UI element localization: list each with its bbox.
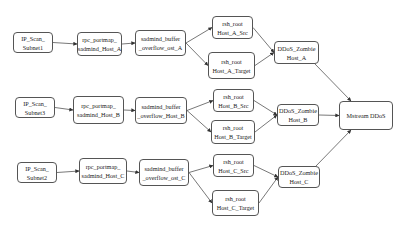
node-scan2: IP_Scan_Subnet2 bbox=[17, 162, 57, 183]
edge-bofA-to-rshASrc bbox=[186, 28, 212, 44]
node-label-line: Subnet3 bbox=[25, 108, 45, 117]
edge-rshASrc-to-zombA bbox=[253, 28, 274, 53]
node-label-line: Host_B_Target bbox=[214, 132, 252, 141]
node-rshBSrc: rsh_rootHost_B_Src bbox=[213, 89, 254, 112]
edge-rshBSrc-to-zombB bbox=[254, 101, 277, 116]
node-label-line: sadmind_Host_C bbox=[82, 171, 125, 180]
node-label-line: sadmind_buffer bbox=[141, 34, 180, 43]
node-label-line: Host_A_Src bbox=[217, 28, 248, 37]
edge-zombA-to-mstream bbox=[315, 64, 351, 101]
node-label-line: Host_A_Target bbox=[213, 66, 251, 75]
node-label-line: Host_C_Src bbox=[218, 166, 248, 175]
node-label-line: Host_B_Src bbox=[218, 101, 248, 110]
node-label-line: IP_Scan_ bbox=[25, 164, 49, 173]
node-label-line: IP_Scan_ bbox=[21, 34, 45, 43]
edge-scan1-to-rpcA bbox=[53, 43, 77, 45]
node-rpcB: rpc_portmap_sadmind_Host_B bbox=[73, 96, 124, 124]
node-zombB: DDoS_ZombieHost_B bbox=[277, 104, 319, 126]
node-label-line: rsh_root bbox=[223, 157, 244, 166]
node-label-line: DDoS_Zombie bbox=[278, 44, 316, 53]
node-rpcA: rpc_portmap_sadmind_Host_A bbox=[77, 32, 122, 56]
node-label-line: _overflow_ost_C bbox=[143, 173, 186, 182]
node-mstream: Mstream DDoS bbox=[339, 101, 393, 130]
node-scan3: IP_Scan_Subnet3 bbox=[15, 97, 55, 118]
edge-zombB-to-mstream bbox=[319, 115, 339, 116]
node-label-line: Subnet2 bbox=[27, 173, 47, 182]
node-label-line: rsh_root bbox=[221, 57, 242, 66]
edge-rshCTgt-to-zombC bbox=[259, 177, 278, 203]
node-rshASrc: rsh_rootHost_A_Src bbox=[212, 16, 253, 39]
node-rshATgt: rsh_rootHost_A_Target bbox=[208, 52, 255, 79]
edge-rshCSrc-to-zombC bbox=[254, 166, 278, 178]
node-label-line: rsh_root bbox=[223, 92, 244, 101]
node-label-line: rpc_portmap_ bbox=[86, 162, 121, 171]
node-label-line: rpc_portmap_ bbox=[81, 101, 116, 110]
node-label-line: sadmind_buffer bbox=[141, 102, 180, 111]
node-rshBTgt: rsh_rootHost_B_Target bbox=[211, 120, 255, 144]
edge-rshATgt-to-zombA bbox=[255, 53, 274, 66]
edge-bofB-to-rshBSrc bbox=[187, 101, 213, 111]
node-label-line: Host_A bbox=[287, 53, 306, 62]
node-zombC: DDoS_ZombieHost_C bbox=[278, 166, 320, 188]
node-rpcC: rpc_portmap_sadmind_Host_C bbox=[79, 158, 127, 184]
edge-bofB-to-rshBTgt bbox=[187, 111, 211, 133]
node-label-line: rpc_portmap_ bbox=[82, 35, 117, 44]
node-label-line: Host_C bbox=[290, 177, 309, 186]
node-zombA: DDoS_ZombieHost_A bbox=[274, 41, 319, 64]
node-label-line: Subnet1 bbox=[23, 43, 43, 52]
edge-rpcB-to-bofB bbox=[124, 110, 135, 111]
node-label-line: DDoS_Zombie bbox=[279, 106, 317, 115]
node-label-line: Mstream DDoS bbox=[346, 111, 385, 120]
node-bofC: sadmind_buffer_overflow_ost_C bbox=[139, 159, 189, 186]
node-label-line: IP_Scan_ bbox=[23, 99, 47, 108]
edge-rpcC-to-bofC bbox=[127, 171, 139, 173]
node-label-line: rsh_root bbox=[222, 19, 243, 28]
node-rshCSrc: rsh_rootHost_C_Src bbox=[213, 154, 254, 177]
edge-zombC-to-mstream bbox=[316, 130, 351, 166]
node-rshCTgt: rsh_rootHost_C_Target bbox=[212, 190, 259, 216]
edge-rshBTgt-to-zombB bbox=[255, 115, 277, 132]
node-label-line: Host_C_Target bbox=[217, 203, 255, 212]
edge-bofC-to-rshCSrc bbox=[189, 166, 213, 173]
node-label-line: sadmind_Host_A bbox=[78, 44, 121, 53]
node-bofA: sadmind_buffer_overflow_ost_A bbox=[135, 30, 186, 56]
node-label-line: _overflow_ost_A bbox=[139, 43, 182, 52]
node-label-line: sadmind_buffer bbox=[144, 164, 183, 173]
node-label-line: sadmind_Host_B bbox=[77, 110, 120, 119]
node-label-line: Host_B bbox=[289, 115, 308, 124]
edge-scan3-to-rpcB bbox=[55, 108, 73, 111]
node-label-line: DDoS_Zombie bbox=[280, 168, 318, 177]
edge-bofC-to-rshCTgt bbox=[189, 173, 212, 204]
node-label-line: rsh_root bbox=[225, 194, 246, 203]
node-label-line: rsh_root bbox=[223, 123, 244, 132]
node-label-line: _overflow_Host_B bbox=[137, 111, 184, 120]
node-bofB: sadmind_buffer_overflow_Host_B bbox=[135, 97, 187, 124]
edge-bofA-to-rshATgt bbox=[186, 43, 208, 66]
node-scan1: IP_Scan_Subnet1 bbox=[13, 32, 53, 53]
edge-rpcA-to-bofA bbox=[122, 43, 135, 44]
edge-scan2-to-rpcC bbox=[57, 171, 79, 173]
